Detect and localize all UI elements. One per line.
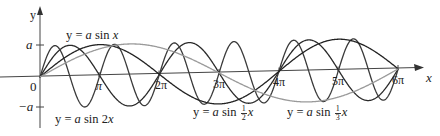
- x-axis-arrow-icon: [414, 64, 424, 71]
- x-tick-4pi: 4π: [273, 76, 285, 88]
- legend-sin-2x: y = a sin 2x: [55, 113, 113, 126]
- x-tick-6pi: 6π: [392, 74, 404, 86]
- y-tick-a: a: [26, 38, 33, 51]
- legend-sin-third-x: y = a sin 13x: [287, 105, 347, 122]
- x-tick-2pi: 2π: [155, 79, 167, 91]
- x-axis-label: x: [426, 71, 432, 84]
- x-tick-pi: π: [96, 80, 102, 92]
- legend-sin-x: y = a sin x: [66, 29, 118, 42]
- x-tick-5pi: 5π: [332, 75, 344, 87]
- y-axis-label: y: [30, 9, 36, 21]
- legend-sin-half-x: y = a sin 12x: [193, 105, 253, 122]
- y-tick-neg-a: −a: [18, 100, 33, 113]
- x-axis: [0, 68, 418, 78]
- origin-label: 0: [30, 80, 37, 93]
- x-tick-3pi: 3π: [213, 78, 225, 90]
- y-axis-arrow-icon: [37, 6, 43, 15]
